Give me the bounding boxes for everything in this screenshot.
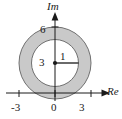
complex-plane-annulus-figure: Im Re 6 3 1 -3 0 3 [0,0,122,119]
tick-label-six: 6 [40,24,46,35]
tick-label-zero: 0 [51,102,57,113]
segment-label-one: 1 [60,51,66,62]
imaginary-axis-label: Im [47,1,59,12]
tick-label-minus-three: -3 [11,102,20,113]
imaginary-axis-arrowhead [52,12,59,21]
inner-radius-label-three: 3 [39,57,45,68]
tick-label-plus-three: 3 [79,102,85,113]
real-axis-label: Re [107,86,119,97]
origin-point-marker [53,61,57,65]
